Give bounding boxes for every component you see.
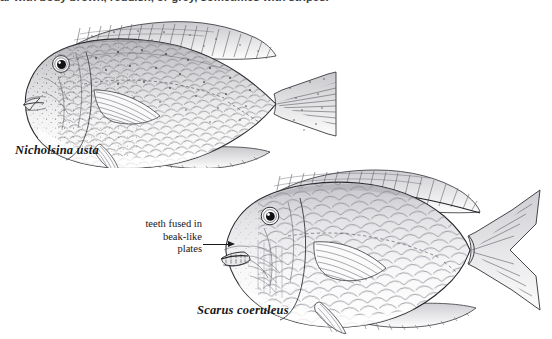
- annotation-leader-arrow-icon: [203, 244, 229, 245]
- page-caption-strip: ar with body brown, reddish, or grey, so…: [0, 0, 552, 11]
- caudal-fin: [468, 190, 540, 310]
- species-label-nicholsina-usta: Nicholsina usta: [15, 143, 99, 158]
- annotation-line-3: plates: [124, 243, 202, 256]
- species-label-scarus-coeruleus: Scarus coeruleus: [197, 303, 289, 318]
- annotation-line-1: teeth fused in: [124, 218, 202, 231]
- fish-eye: [53, 56, 70, 73]
- fish-eye: [261, 207, 279, 225]
- annotation-line-2: beak-like: [124, 231, 202, 244]
- page-caption-text: ar with body brown, reddish, or grey, so…: [0, 0, 329, 3]
- annotation-teeth-fused: teeth fused in beak-like plates: [124, 218, 202, 256]
- illustration-page: ar with body brown, reddish, or grey, so…: [0, 0, 552, 339]
- caudal-fin: [274, 72, 336, 136]
